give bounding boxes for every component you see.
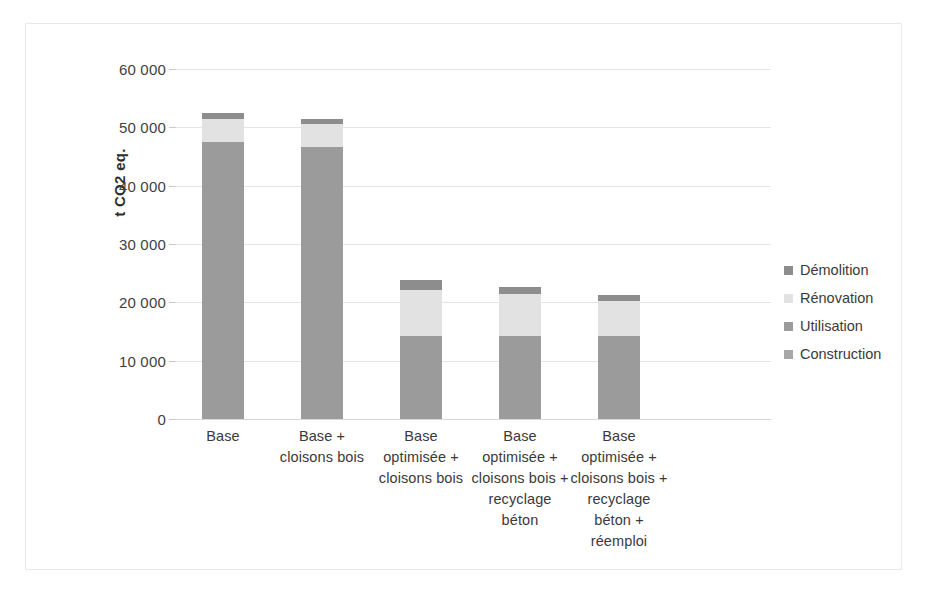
legend-item-rnovation[interactable]: Rénovation xyxy=(784,284,914,312)
gridline-50000 xyxy=(176,127,771,128)
x-axis-label-4-line-0: Base xyxy=(561,426,677,447)
plot-area xyxy=(176,69,771,419)
y-tick-10000: 10 000 xyxy=(119,352,166,369)
tickmark-10000 xyxy=(169,361,176,362)
tickmark-50000 xyxy=(169,127,176,128)
x-axis-label-4: Baseoptimisée +cloisons bois +recyclageb… xyxy=(561,426,677,552)
gridline-40000 xyxy=(176,186,771,187)
legend-swatch-icon-1 xyxy=(784,294,793,303)
legend-item-utilisation[interactable]: Utilisation xyxy=(784,312,914,340)
bar-segment-rnovation-3[interactable] xyxy=(499,294,541,336)
legend-item-dmolition[interactable]: Démolition xyxy=(784,256,914,284)
x-axis-label-4-line-2: cloisons bois + xyxy=(561,468,677,489)
legend-label-2: Utilisation xyxy=(800,318,863,334)
legend-label-0: Démolition xyxy=(800,262,869,278)
x-axis-label-4-line-5: réemploi xyxy=(561,531,677,552)
legend-item-construction[interactable]: Construction xyxy=(784,340,914,368)
x-axis-label-4-line-4: béton + xyxy=(561,510,677,531)
gridline-20000 xyxy=(176,302,771,303)
tickmark-0 xyxy=(169,419,176,420)
bar-segment-utilisation-0[interactable] xyxy=(202,142,244,419)
bar-column-0[interactable] xyxy=(202,113,244,419)
bar-segment-dmolition-3[interactable] xyxy=(499,287,541,294)
bar-segment-utilisation-3[interactable] xyxy=(499,336,541,419)
bar-segment-rnovation-4[interactable] xyxy=(598,301,640,337)
chart-legend: DémolitionRénovationUtilisationConstruct… xyxy=(784,256,914,368)
bar-segment-dmolition-2[interactable] xyxy=(400,280,442,290)
tickmark-40000 xyxy=(169,186,176,187)
x-axis-category-labels: BaseBase +cloisons boisBaseoptimisée +cl… xyxy=(176,426,771,598)
bar-column-1[interactable] xyxy=(301,119,343,419)
legend-swatch-icon-2 xyxy=(784,322,793,331)
gridline-10000 xyxy=(176,361,771,362)
bar-segment-utilisation-2[interactable] xyxy=(400,336,442,419)
bar-segment-rnovation-2[interactable] xyxy=(400,290,442,336)
gridline-baseline-0 xyxy=(176,419,771,420)
chart-frame: t CO2 eq. 0 10 000 20 000 30 000 40 000 … xyxy=(25,23,902,570)
bar-segment-utilisation-1[interactable] xyxy=(301,147,343,419)
tickmark-20000 xyxy=(169,302,176,303)
legend-label-1: Rénovation xyxy=(800,290,873,306)
legend-swatch-icon-3 xyxy=(784,350,793,359)
tickmark-60000 xyxy=(169,69,176,70)
legend-label-3: Construction xyxy=(800,346,881,362)
gridline-60000 xyxy=(176,69,771,70)
x-axis-label-4-line-3: recyclage xyxy=(561,489,677,510)
bar-column-3[interactable] xyxy=(499,287,541,419)
bar-column-4[interactable] xyxy=(598,295,640,419)
bar-segment-rnovation-1[interactable] xyxy=(301,124,343,147)
y-tick-50000: 50 000 xyxy=(119,119,166,136)
bar-segment-utilisation-4[interactable] xyxy=(598,336,640,419)
bar-segment-rnovation-0[interactable] xyxy=(202,119,244,142)
y-tick-60000: 60 000 xyxy=(119,61,166,78)
y-tick-20000: 20 000 xyxy=(119,294,166,311)
tickmark-30000 xyxy=(169,244,176,245)
y-axis-tick-labels: 0 10 000 20 000 30 000 40 000 50 000 60 … xyxy=(86,69,166,419)
y-tick-40000: 40 000 xyxy=(119,177,166,194)
bar-column-2[interactable] xyxy=(400,280,442,419)
gridline-30000 xyxy=(176,244,771,245)
y-tick-0: 0 xyxy=(157,411,166,428)
x-axis-label-4-line-1: optimisée + xyxy=(561,447,677,468)
legend-swatch-icon-0 xyxy=(784,266,793,275)
y-tick-30000: 30 000 xyxy=(119,236,166,253)
